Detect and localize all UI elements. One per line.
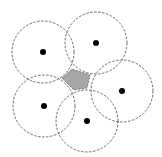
node-dot-top-left xyxy=(40,49,46,55)
node-dot-bottom-right xyxy=(84,118,90,124)
node-dot-top-right xyxy=(93,40,99,46)
node-dot-bottom-left xyxy=(41,103,47,109)
coverage-diagram xyxy=(0,0,162,157)
node-dot-right xyxy=(119,88,125,94)
